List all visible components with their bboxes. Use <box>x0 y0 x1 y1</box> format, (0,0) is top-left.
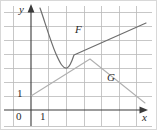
curve-f-path <box>40 8 146 68</box>
tick-label-origin: 0 <box>16 111 22 122</box>
tick-label-y-one: 1 <box>17 88 23 99</box>
x-axis-label: x <box>142 112 147 123</box>
curve-f-label: F <box>75 24 82 35</box>
y-axis-arrowhead <box>28 4 35 13</box>
plot-canvas <box>0 0 157 130</box>
y-axis-label: y <box>19 4 24 15</box>
graph-figure: y x F G 0 1 1 <box>0 0 157 130</box>
tick-label-x-one: 1 <box>40 111 46 122</box>
curve-g-label: G <box>107 72 115 83</box>
